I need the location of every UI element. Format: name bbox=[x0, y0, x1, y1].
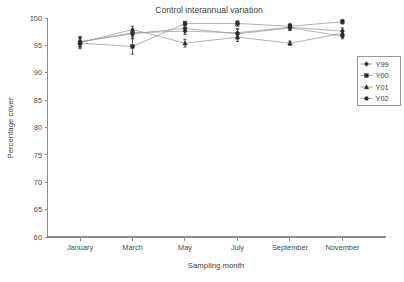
data-point-y00 bbox=[183, 22, 187, 26]
legend-marker-square bbox=[365, 74, 369, 78]
chart-title: Control interannual variation bbox=[155, 5, 263, 15]
y-tick-label: 95 bbox=[34, 41, 42, 50]
data-point-y00 bbox=[236, 22, 240, 26]
series-line-y00 bbox=[80, 22, 342, 47]
y-tick-label: 75 bbox=[34, 151, 42, 160]
series-marker-group bbox=[78, 20, 345, 48]
legend-label: Y00 bbox=[376, 71, 389, 80]
series-line-group bbox=[80, 22, 342, 47]
y-axis-title: Percentage cover bbox=[6, 97, 15, 159]
data-point-y00 bbox=[341, 20, 345, 24]
data-point-y02 bbox=[131, 32, 135, 36]
x-tick-label: March bbox=[122, 243, 143, 252]
x-axis: JanuaryMarchMayJulySeptemberNovember Sam… bbox=[48, 237, 387, 270]
chart-legend[interactable]: Y99Y00Y01Y02 bbox=[358, 57, 401, 106]
x-tick-label: January bbox=[67, 243, 94, 252]
y-tick-label: 90 bbox=[34, 68, 42, 77]
y-axis: 6065707580859095100 Percentage cover bbox=[6, 14, 48, 242]
x-tick-label: November bbox=[325, 243, 360, 252]
x-tick-label: May bbox=[178, 243, 192, 252]
y-tick-label: 65 bbox=[34, 205, 42, 214]
x-tick-label: July bbox=[231, 243, 244, 252]
legend-label: Y99 bbox=[376, 60, 389, 69]
chart-figure: Control interannual variation 6065707580… bbox=[0, 0, 404, 282]
legend-label: Y01 bbox=[376, 83, 389, 92]
x-tick-label: September bbox=[272, 243, 309, 252]
y-tick-label: 70 bbox=[34, 178, 42, 187]
series-line-y02 bbox=[80, 28, 342, 42]
data-point-y02 bbox=[183, 27, 187, 31]
data-point-y00 bbox=[131, 45, 135, 49]
legend-marker-circle bbox=[365, 97, 369, 101]
chart-title-group: Control interannual variation bbox=[155, 5, 263, 15]
chart-canvas: Control interannual variation 6065707580… bbox=[0, 0, 404, 282]
y-tick-label: 60 bbox=[34, 233, 42, 242]
y-tick-label: 80 bbox=[34, 123, 42, 132]
data-point-y02 bbox=[236, 32, 240, 36]
x-tick-group: JanuaryMarchMayJulySeptemberNovember bbox=[67, 237, 360, 252]
y-tick-group: 6065707580859095100 bbox=[30, 14, 48, 242]
series-line-y01 bbox=[80, 30, 342, 44]
data-point-y02 bbox=[341, 34, 345, 38]
data-point-y02 bbox=[78, 40, 82, 44]
y-tick-label: 85 bbox=[34, 96, 42, 105]
y-tick-label: 100 bbox=[30, 14, 42, 23]
x-axis-title: Sampling month bbox=[188, 261, 244, 270]
legend-label: Y02 bbox=[376, 94, 389, 103]
data-point-y02 bbox=[288, 26, 292, 30]
